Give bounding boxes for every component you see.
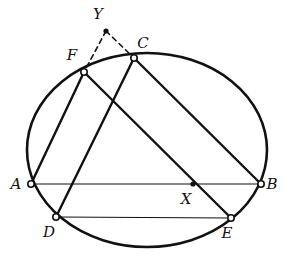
point-label-y: Y	[93, 5, 105, 23]
segment-af	[31, 72, 84, 184]
point-marker-e	[228, 215, 234, 221]
point-marker-y	[103, 28, 108, 33]
point-marker-d	[53, 214, 59, 220]
geometry-figure: ABCDEFXY	[0, 0, 289, 258]
point-marker-a	[28, 181, 34, 187]
point-label-x: X	[180, 190, 193, 208]
point-label-e: E	[221, 224, 233, 242]
point-marker-c	[131, 55, 137, 61]
point-markers-layer	[28, 28, 264, 221]
segment-cb	[134, 58, 261, 184]
point-label-a: A	[9, 175, 22, 193]
point-marker-x	[190, 181, 195, 186]
point-marker-b	[258, 181, 264, 187]
segment-yf	[84, 31, 106, 72]
segment-fe	[84, 72, 231, 218]
diagram-canvas: ABCDEFXY	[0, 0, 289, 258]
point-label-b: B	[265, 175, 277, 193]
point-label-c: C	[137, 34, 149, 52]
segment-de	[56, 217, 231, 218]
segments-layer	[31, 31, 261, 218]
point-label-d: D	[42, 223, 55, 241]
point-label-f: F	[66, 46, 78, 64]
point-marker-f	[81, 69, 87, 75]
